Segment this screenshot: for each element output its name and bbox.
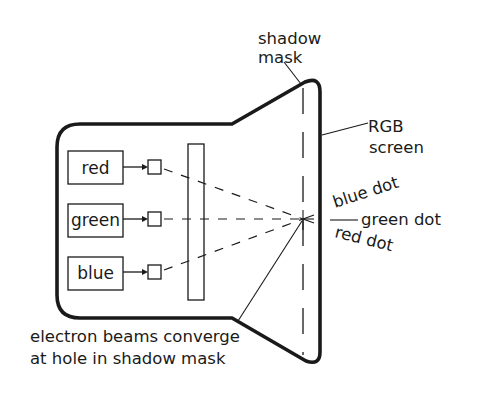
green-dot-label: green dot — [361, 210, 441, 229]
shadow-mask-label-line2: mask — [258, 48, 303, 67]
gun-blue: blue — [68, 257, 161, 290]
rgb-screen-label-line2: screen — [369, 138, 424, 157]
rgb-screen-leader — [322, 123, 368, 135]
deflection-plate — [188, 144, 204, 300]
shadow-mask-label-line1: shadow — [258, 29, 321, 48]
gun-red-label: red — [82, 158, 110, 178]
converge-label-line1: electron beams converge — [30, 327, 240, 346]
beam-dots-continuation — [303, 210, 314, 230]
crt-diagram: red green blue shadow mask RGB s — [0, 0, 480, 408]
electron-beams — [164, 169, 303, 270]
converge-label-line2: at hole in shadow mask — [30, 349, 226, 368]
gun-green: green — [68, 204, 161, 237]
blue-dot-label: blue dot — [330, 173, 401, 212]
gun-green-label: green — [71, 210, 120, 230]
gun-blue-label: blue — [77, 263, 114, 283]
converge-leader — [238, 221, 302, 321]
rgb-screen-label-line1: RGB — [368, 117, 404, 136]
gun-red: red — [68, 151, 161, 184]
